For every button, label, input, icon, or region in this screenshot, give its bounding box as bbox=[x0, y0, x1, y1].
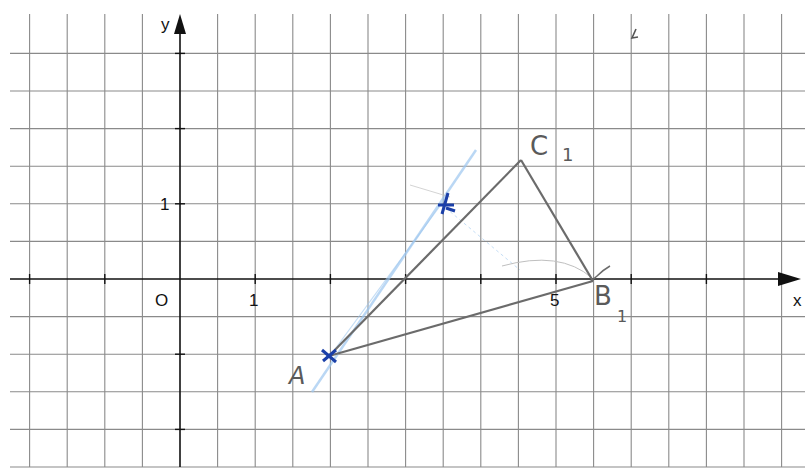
coordinate-plane: y x O 1 5 1 A B 1 C 1 bbox=[0, 0, 812, 471]
x-tick-label-1: 1 bbox=[249, 291, 258, 310]
point-b1-subscript: 1 bbox=[617, 307, 627, 326]
triangle-a-b1-c1 bbox=[329, 160, 593, 356]
point-a-label: A bbox=[287, 362, 305, 390]
x-axis-arrow-icon bbox=[778, 272, 801, 286]
grid-lines bbox=[10, 14, 805, 467]
y-axis-label: y bbox=[161, 15, 170, 34]
segment-a-b1 bbox=[329, 281, 593, 356]
y-tick-label-1: 1 bbox=[160, 195, 169, 214]
stray-pencil-mark bbox=[632, 29, 638, 38]
construction-lines bbox=[312, 150, 592, 392]
point-labels: A B 1 C 1 bbox=[287, 131, 627, 390]
point-c1-subscript: 1 bbox=[562, 144, 573, 165]
y-axis bbox=[174, 14, 186, 467]
origin-label: O bbox=[155, 291, 168, 310]
point-b1-label: B bbox=[594, 281, 612, 311]
marked-point-mark bbox=[438, 193, 455, 214]
x-axis-label: x bbox=[793, 291, 802, 310]
point-a-mark bbox=[322, 350, 336, 362]
segment-c1-b1 bbox=[521, 160, 593, 281]
y-axis-arrow-icon bbox=[174, 14, 186, 34]
point-c1-label: C bbox=[530, 131, 548, 161]
